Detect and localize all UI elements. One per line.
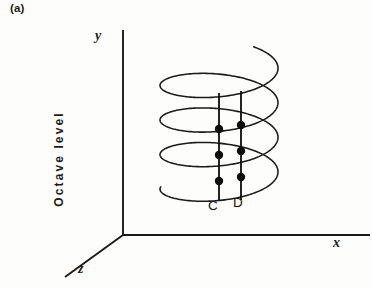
z-axis-line [65, 235, 123, 277]
intersection-dot-c-octave-1 [215, 125, 223, 133]
helix-diagram-canvas [0, 0, 372, 288]
figure-panel: (a) Octave level y x z C D [0, 0, 372, 288]
intersection-dot-c-octave-3 [215, 177, 223, 185]
intersection-dot-d-octave-3 [237, 173, 245, 181]
intersection-dot-d-octave-1 [237, 121, 245, 129]
intersection-dot-d-octave-2 [237, 147, 245, 155]
intersection-dot-c-octave-2 [215, 151, 223, 159]
